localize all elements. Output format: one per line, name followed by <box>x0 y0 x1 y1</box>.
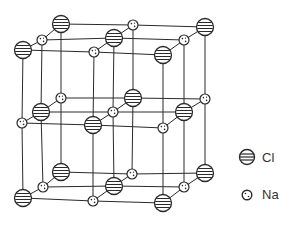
bond-line <box>114 186 184 187</box>
bond-line <box>113 112 114 186</box>
na-atom <box>158 123 168 133</box>
legend-item-cl: Cl <box>238 148 274 166</box>
cl-atom <box>15 190 32 207</box>
bond-line <box>22 123 93 125</box>
bond-line <box>94 52 163 55</box>
na-atom <box>38 182 48 192</box>
bond-line <box>93 201 163 203</box>
cl-atom <box>53 164 70 181</box>
cl-atom <box>125 90 142 107</box>
na-atom <box>88 196 98 206</box>
na-atom <box>128 20 138 30</box>
cl-atom <box>15 42 32 59</box>
cl-atom <box>106 30 123 47</box>
bond-line <box>114 38 184 40</box>
bond-line <box>61 24 133 25</box>
legend-item-na: Na <box>241 187 279 202</box>
na-atom <box>179 35 189 45</box>
bond-line <box>133 25 205 27</box>
cl-atom <box>85 117 102 134</box>
cl-atom <box>155 47 172 64</box>
lattice-atoms <box>15 16 214 212</box>
na-atom-icon <box>241 189 253 201</box>
cl-atom <box>155 195 172 212</box>
cl-atom <box>176 104 193 121</box>
legend-label-na: Na <box>262 187 279 202</box>
bond-line <box>23 198 93 201</box>
bond-line <box>42 38 114 40</box>
cl-atom <box>33 104 50 121</box>
na-atom <box>179 182 189 192</box>
bond-line <box>22 50 23 123</box>
legend-label-cl: Cl <box>262 150 274 165</box>
bond-line <box>132 98 133 174</box>
na-atom <box>127 169 137 179</box>
bond-line <box>43 186 114 187</box>
cl-atom <box>53 16 70 33</box>
na-atom <box>89 47 99 57</box>
na-atom <box>108 107 118 117</box>
cl-atom <box>106 178 123 195</box>
na-atom <box>56 93 66 103</box>
cl-atom-icon <box>238 148 256 166</box>
bond-line <box>61 172 132 174</box>
bond-line <box>132 173 205 174</box>
bond-line <box>113 38 114 112</box>
bond-line <box>133 98 205 99</box>
cl-atom <box>197 165 214 182</box>
na-atom <box>200 94 210 104</box>
na-atom <box>17 118 27 128</box>
cl-atom <box>197 19 214 36</box>
bond-line <box>93 52 94 125</box>
bond-line <box>22 123 23 198</box>
na-atom <box>37 35 47 45</box>
bond-line <box>23 50 94 52</box>
bond-line <box>93 125 163 128</box>
